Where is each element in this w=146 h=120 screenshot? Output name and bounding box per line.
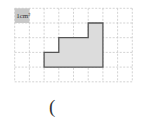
- answer-bracket: (: [49, 97, 55, 117]
- grid-diagram: 1cm²: [0, 0, 146, 120]
- unit-label: 1cm²: [16, 12, 30, 20]
